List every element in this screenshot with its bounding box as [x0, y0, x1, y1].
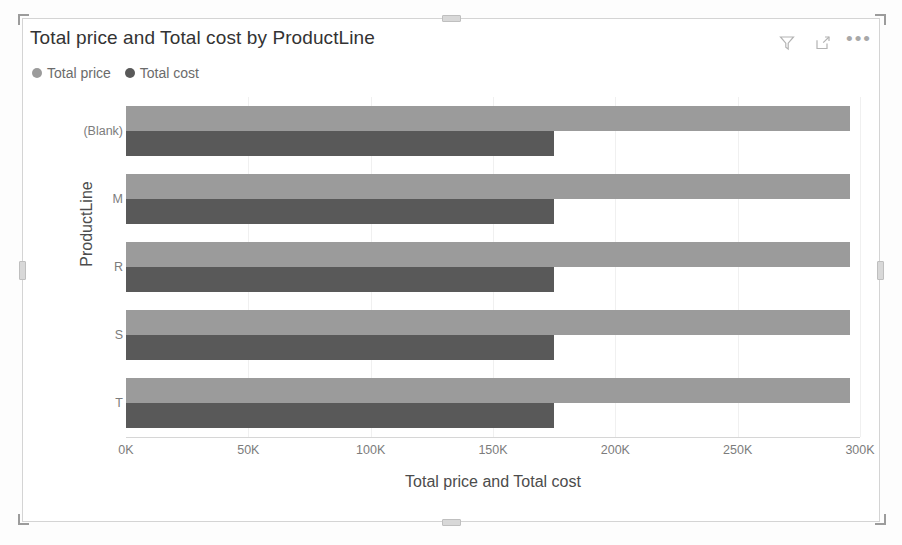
y-axis-tick-label: (Blank): [57, 124, 123, 138]
resize-handle-top-right[interactable]: [875, 14, 886, 25]
chart-legend: Total price Total cost: [32, 65, 199, 81]
x-axis-tick-label: 150K: [478, 443, 507, 457]
x-axis-line: [126, 437, 860, 438]
bar-total-cost[interactable]: [126, 199, 554, 224]
legend-label-total-price: Total price: [47, 65, 111, 81]
x-axis-tick-label: 0K: [118, 443, 133, 457]
resize-handle-bottom-center[interactable]: [442, 519, 461, 526]
x-axis-tick-label: 100K: [356, 443, 385, 457]
bar-total-cost[interactable]: [126, 403, 554, 428]
x-axis-tick-label: 200K: [601, 443, 630, 457]
bar-total-price[interactable]: [126, 106, 850, 131]
resize-handle-top-center[interactable]: [442, 15, 461, 22]
y-axis-tick-label: T: [57, 396, 123, 410]
legend-item-total-cost[interactable]: Total cost: [125, 65, 199, 81]
x-axis-tick-label: 250K: [723, 443, 752, 457]
bar-group: [126, 378, 860, 428]
resize-handle-bottom-right[interactable]: [875, 514, 886, 525]
resize-handle-right-center[interactable]: [877, 261, 884, 280]
bar-group: [126, 310, 860, 360]
bar-chart-visual[interactable]: Total price and Total cost by ProductLin…: [22, 18, 880, 522]
bar-group: [126, 242, 860, 292]
x-axis-tick-label: 50K: [237, 443, 259, 457]
filter-icon[interactable]: [777, 33, 797, 53]
resize-handle-top-left[interactable]: [18, 14, 29, 25]
report-canvas: Total price and Total cost by ProductLin…: [0, 0, 902, 545]
legend-swatch-total-cost: [125, 68, 135, 78]
resize-handle-left-center[interactable]: [19, 261, 26, 280]
chart-plot-wrapper: ProductLine (Blank)MRST 0K50K100K150K200…: [23, 97, 879, 521]
visual-action-bar: •••: [777, 29, 869, 57]
y-axis-tick-label: R: [57, 260, 123, 274]
legend-label-total-cost: Total cost: [140, 65, 199, 81]
page-title: Total price and Total cost by ProductLin…: [30, 27, 375, 49]
bar-total-cost[interactable]: [126, 131, 554, 156]
x-axis-tick-labels: 0K50K100K150K200K250K300K: [126, 443, 860, 465]
y-axis-tick-labels: (Blank)MRST: [57, 97, 123, 437]
x-axis-tick-label: 300K: [845, 443, 874, 457]
bar-group: [126, 106, 860, 156]
resize-handle-bottom-left[interactable]: [18, 514, 29, 525]
legend-item-total-price[interactable]: Total price: [32, 65, 111, 81]
y-axis-tick-label: S: [57, 328, 123, 342]
x-axis-title: Total price and Total cost: [126, 473, 860, 491]
bar-total-price[interactable]: [126, 310, 850, 335]
y-axis-tick-label: M: [57, 192, 123, 206]
bar-total-price[interactable]: [126, 242, 850, 267]
bar-total-price[interactable]: [126, 378, 850, 403]
bar-group: [126, 174, 860, 224]
plot-area[interactable]: [126, 97, 860, 437]
bar-total-cost[interactable]: [126, 335, 554, 360]
gridline: [860, 97, 861, 437]
focus-mode-icon[interactable]: [813, 33, 833, 53]
bar-total-price[interactable]: [126, 174, 850, 199]
visual-header: Total price and Total cost by ProductLin…: [23, 19, 879, 61]
bar-total-cost[interactable]: [126, 267, 554, 292]
more-options-icon[interactable]: •••: [849, 29, 869, 57]
legend-swatch-total-price: [32, 68, 42, 78]
